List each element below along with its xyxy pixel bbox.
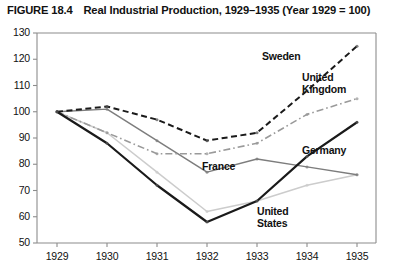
series-point bbox=[106, 105, 109, 108]
series-point bbox=[106, 142, 109, 145]
series-point bbox=[156, 139, 159, 142]
y-tick-label: 100 bbox=[2, 105, 30, 117]
y-tick-label: 130 bbox=[2, 26, 30, 38]
series-point bbox=[356, 173, 359, 176]
y-tick-label: 50 bbox=[2, 236, 30, 248]
figure-caption: FIGURE 18.4 Real Industrial Production, … bbox=[7, 4, 370, 16]
series-label-line: United bbox=[257, 205, 288, 218]
series-point bbox=[256, 131, 259, 134]
figure-number: FIGURE 18.4 bbox=[7, 4, 73, 16]
y-tick-label: 120 bbox=[2, 52, 30, 64]
x-tick-label: 1934 bbox=[287, 250, 327, 262]
series-label-line: Kingdom bbox=[302, 83, 346, 96]
chart-svg bbox=[0, 22, 411, 272]
chart-plot-area: 5060708090100110120130 19291930193119321… bbox=[0, 22, 411, 272]
x-tick-label: 1929 bbox=[37, 250, 77, 262]
y-tick-label: 60 bbox=[2, 210, 30, 222]
y-tick-label: 70 bbox=[2, 184, 30, 196]
series-point bbox=[356, 97, 359, 100]
series-label-sweden: Sweden bbox=[262, 50, 300, 63]
series-point bbox=[206, 221, 209, 224]
series-label-united-states: UnitedStates bbox=[257, 205, 288, 230]
series-point bbox=[106, 108, 109, 111]
y-tick-label: 90 bbox=[2, 131, 30, 143]
series-point bbox=[256, 142, 259, 145]
y-tick-label: 80 bbox=[2, 157, 30, 169]
series-point bbox=[206, 139, 209, 142]
series-point bbox=[206, 152, 209, 155]
x-tick-label: 1931 bbox=[137, 250, 177, 262]
series-label-line: United bbox=[302, 71, 346, 84]
series-point bbox=[356, 121, 359, 124]
series-label-line: States bbox=[257, 217, 288, 230]
x-tick-label: 1932 bbox=[187, 250, 227, 262]
series-point bbox=[106, 131, 109, 134]
series-label-france: France bbox=[202, 160, 235, 173]
figure-title: Real Industrial Production, 1929–1935 (Y… bbox=[83, 4, 370, 16]
series-point bbox=[156, 118, 159, 121]
series-point bbox=[56, 110, 59, 113]
series-point bbox=[206, 210, 209, 213]
figure-container: FIGURE 18.4 Real Industrial Production, … bbox=[0, 0, 411, 272]
y-tick-label: 110 bbox=[2, 79, 30, 91]
series-point bbox=[306, 184, 309, 187]
x-tick-label: 1930 bbox=[87, 250, 127, 262]
series-point bbox=[156, 184, 159, 187]
series-label-united-kingdom: UnitedKingdom bbox=[302, 71, 346, 96]
series-point bbox=[356, 45, 359, 48]
series-point bbox=[306, 165, 309, 168]
x-tick-label: 1933 bbox=[237, 250, 277, 262]
series-point bbox=[156, 171, 159, 174]
series-label-germany: Germany bbox=[302, 144, 346, 157]
series-point bbox=[156, 152, 159, 155]
series-point bbox=[306, 113, 309, 116]
series-point bbox=[256, 158, 259, 161]
series-point bbox=[256, 200, 259, 203]
x-tick-label: 1935 bbox=[337, 250, 377, 262]
